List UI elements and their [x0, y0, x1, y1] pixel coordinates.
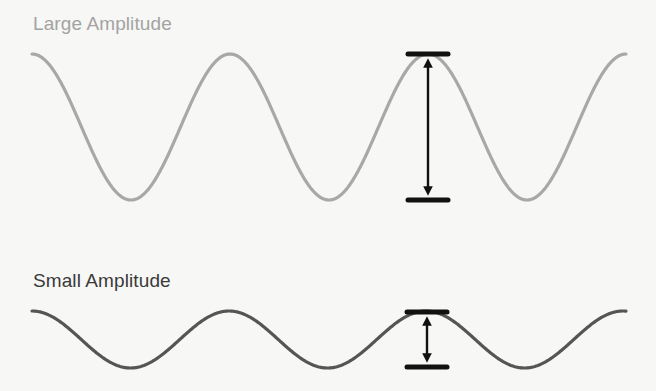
large-amplitude-wave	[32, 54, 626, 200]
amplitude-diagram	[0, 0, 656, 391]
large-amplitude-marker	[408, 54, 448, 200]
small-amplitude-wave	[32, 311, 626, 368]
small-amplitude-marker	[407, 312, 447, 367]
